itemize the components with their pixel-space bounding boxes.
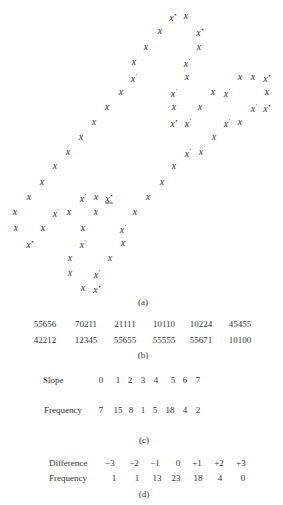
frequency-value: 13: [153, 473, 162, 483]
starred-point-mark: x•: [263, 71, 270, 84]
point-mark: x: [197, 42, 201, 52]
difference-value: +2: [214, 458, 224, 468]
point-mark: x: [172, 102, 176, 112]
slope-value: 6: [183, 375, 188, 385]
code-cell: 45455: [229, 319, 252, 329]
primed-point-mark: x′: [80, 191, 86, 204]
code-cell: 55655: [114, 335, 137, 345]
starred-point-mark: x•: [169, 10, 176, 23]
point-mark: x: [238, 117, 242, 127]
frequency-value: 8: [129, 405, 134, 415]
code-cell: 55671: [190, 335, 213, 345]
code-cell: 12345: [75, 335, 98, 345]
figure-a-caption: (a): [138, 297, 148, 307]
starred-point-mark: x•: [93, 282, 100, 295]
point-mark: x: [185, 72, 189, 82]
point-mark: x: [198, 102, 202, 112]
starred-point-mark: x•: [170, 116, 177, 129]
difference-label: Difference: [49, 458, 87, 468]
code-cell: 10224: [190, 319, 213, 329]
slope-value: 4: [154, 375, 159, 385]
point-mark: x: [172, 161, 176, 171]
code-cell: 55656: [34, 319, 57, 329]
starred-point-mark: x•: [196, 25, 203, 38]
point-mark: x: [67, 207, 71, 217]
point-mark: x: [251, 72, 255, 82]
frequency-value: 1: [112, 473, 117, 483]
primed-point-mark: x′: [171, 86, 177, 99]
point-mark: x: [265, 87, 269, 97]
code-cell: 10110: [153, 319, 175, 329]
frequency-label: Frequency: [44, 405, 82, 415]
frequency-value: 4: [183, 405, 188, 415]
difference-value: −2: [129, 458, 139, 468]
primed-point-mark: x′: [120, 222, 126, 235]
point-mark: x: [132, 57, 136, 67]
point-mark: x: [14, 223, 18, 233]
frequency-value: 15: [114, 405, 123, 415]
point-mark: x: [121, 238, 125, 248]
code-cell: 21111: [114, 319, 136, 329]
primed-point-mark: x′: [224, 86, 230, 99]
frequency-value: 2: [196, 405, 201, 415]
primed-point-mark: x′: [53, 206, 59, 219]
point-mark: x: [13, 207, 17, 217]
primed-point-mark: x′: [185, 146, 191, 159]
point-mark: x: [211, 87, 215, 97]
frequency-value: 1: [135, 473, 140, 483]
slope-label: Slope: [43, 375, 64, 385]
frequency-value: 18: [166, 405, 175, 415]
point-mark: x: [27, 192, 31, 202]
slope-value: 1: [116, 375, 121, 385]
point-mark: x: [199, 147, 203, 157]
point-mark: x: [144, 42, 148, 52]
point-mark: x: [108, 253, 112, 263]
point-mark: x: [160, 177, 164, 187]
point-mark: x: [81, 283, 85, 293]
figure-c-caption: (c): [139, 435, 149, 445]
frequency-value: 5: [153, 405, 158, 415]
primed-point-mark: x′: [185, 116, 191, 129]
difference-value: +3: [236, 458, 246, 468]
primed-point-mark: x′: [80, 237, 86, 250]
slope-value: 7: [196, 375, 201, 385]
difference-value: 0: [176, 458, 181, 468]
code-cell: 70211: [75, 319, 97, 329]
point-mark: x: [92, 117, 96, 127]
point-mark: x: [41, 223, 45, 233]
frequency-value: 1: [141, 405, 146, 415]
code-cell: 10100: [229, 335, 252, 345]
primed-point-mark: x′: [184, 56, 190, 69]
frequency-value: 23: [172, 473, 181, 483]
slope-value: 0: [99, 375, 104, 385]
starred-point-mark: x•: [26, 237, 33, 250]
frequency-value: 18: [194, 473, 203, 483]
point-mark: x: [68, 253, 72, 263]
slope-value: 3: [141, 375, 146, 385]
slope-value: 5: [171, 375, 176, 385]
primed-point-mark: x′: [94, 267, 100, 280]
point-mark: x: [105, 102, 109, 112]
starred-point-mark: x•: [105, 191, 112, 204]
point-mark: x: [81, 223, 85, 233]
point-mark: x: [184, 11, 188, 21]
primed-point-mark: x′: [251, 101, 257, 114]
frequency-value: 4: [218, 473, 223, 483]
difference-value: +1: [192, 458, 202, 468]
primed-point-mark: x′: [224, 116, 230, 129]
point-mark: x: [212, 132, 216, 142]
point-mark: x: [68, 268, 72, 278]
point-mark: x: [66, 147, 70, 157]
figure-d-caption: (d): [139, 489, 150, 499]
code-cell: 42212: [34, 335, 57, 345]
point-mark: x: [158, 26, 162, 36]
point-mark: x: [40, 177, 44, 187]
difference-value: −3: [105, 458, 115, 468]
point-mark: x: [79, 132, 83, 142]
point-mark: x: [119, 87, 123, 97]
primed-point-mark: x′: [131, 71, 137, 84]
code-cell: 55555: [153, 335, 176, 345]
starred-point-mark: x•: [263, 101, 270, 114]
difference-value: −1: [150, 458, 160, 468]
figure-b-caption: (b): [138, 350, 149, 360]
